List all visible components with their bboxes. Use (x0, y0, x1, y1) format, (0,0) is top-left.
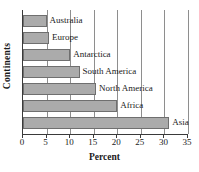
bar (23, 100, 117, 112)
bar-series: AustraliaEuropeAntarcticaSouth AmericaNo… (23, 10, 188, 134)
bar-category-label: Africa (117, 101, 143, 110)
y-axis-title-text: Continents (2, 43, 12, 89)
x-tick-label: 10 (65, 138, 74, 147)
x-axis-title: Percent (22, 152, 187, 162)
bar-row: Europe (23, 32, 188, 44)
bar-category-label: Asia (169, 118, 189, 127)
x-tick-label: 0 (20, 138, 25, 147)
bar (23, 117, 169, 129)
bar-row: North America (23, 83, 188, 95)
bar-row: South America (23, 66, 188, 78)
x-tick-label: 35 (183, 138, 192, 147)
bar-row: Antarctica (23, 49, 188, 61)
x-tick-label: 25 (135, 138, 144, 147)
bar-category-label: North America (96, 84, 153, 93)
bar-category-label: Europe (49, 33, 78, 42)
bar (23, 32, 49, 44)
bar-category-label: Australia (47, 16, 83, 25)
x-tick-label: 20 (112, 138, 121, 147)
bar-row: Australia (23, 15, 188, 27)
bar (23, 66, 80, 78)
bar-chart: Continents AustraliaEuropeAntarcticaSout… (0, 0, 199, 172)
gridline (188, 10, 189, 134)
plot-area: AustraliaEuropeAntarcticaSouth AmericaNo… (22, 10, 188, 135)
bar-category-label: Antarctica (70, 50, 110, 59)
x-axis-tick-labels: 05101520253035 (0, 138, 199, 150)
bar (23, 49, 70, 61)
x-tick-label: 30 (159, 138, 168, 147)
y-axis-title: Continents (0, 0, 15, 132)
bar (23, 15, 47, 27)
bar-category-label: South America (80, 67, 137, 76)
bar-row: Asia (23, 117, 188, 129)
x-tick-label: 5 (43, 138, 48, 147)
bar (23, 83, 96, 95)
bar-row: Africa (23, 100, 188, 112)
x-tick-label: 15 (88, 138, 97, 147)
